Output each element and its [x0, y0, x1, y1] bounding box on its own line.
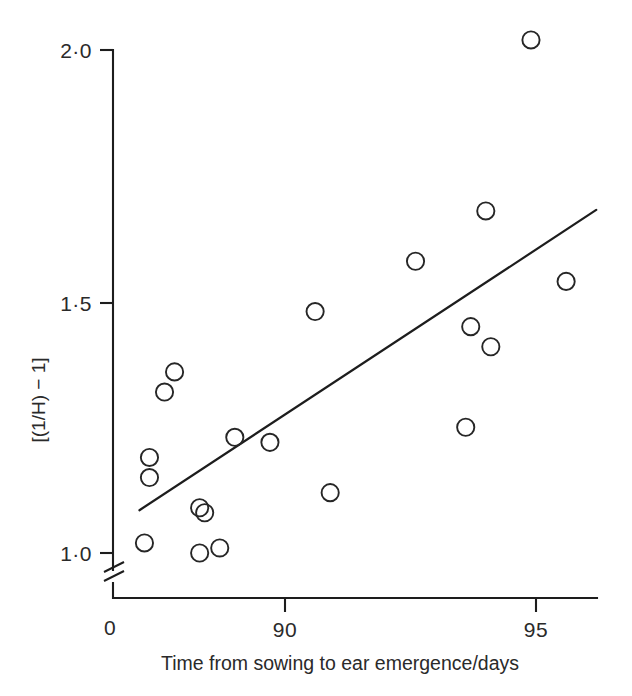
y-tick-label-1.0: 1·0 [60, 542, 92, 565]
chart-figure: 2·0 1·5 1·0 0 90 95 [(1/H) − 1] Time fro… [0, 0, 632, 696]
data-point-marker [522, 31, 539, 48]
data-point-marker [482, 338, 499, 355]
axis-break-mark-lower [104, 571, 124, 581]
data-point-marker [196, 504, 213, 521]
data-point-marker [191, 544, 208, 561]
data-point-marker [457, 419, 474, 436]
x-tick-label-90: 90 [273, 618, 297, 641]
data-point-marker [211, 539, 228, 556]
origin-label: 0 [104, 616, 116, 639]
data-point-marker [462, 318, 479, 335]
data-point-group [136, 31, 575, 561]
x-tick-label-95: 95 [524, 618, 548, 641]
data-point-marker [141, 449, 158, 466]
y-tick-label-2.0: 2·0 [60, 39, 92, 62]
data-point-marker [407, 253, 424, 270]
data-point-marker [166, 363, 183, 380]
data-point-marker [156, 383, 173, 400]
data-point-marker [477, 202, 494, 219]
data-point-marker [141, 469, 158, 486]
x-axis-line [113, 583, 597, 598]
data-point-marker [558, 273, 575, 290]
data-point-marker [307, 303, 324, 320]
data-point-marker [226, 429, 243, 446]
data-point-marker [136, 534, 153, 551]
y-axis-title: [(1/H) − 1] [28, 358, 49, 443]
data-point-marker [191, 499, 208, 516]
scatter-plot-canvas: 2·0 1·5 1·0 0 90 95 [(1/H) − 1] Time fro… [0, 0, 632, 696]
x-axis-title: Time from sowing to ear emergence/days [161, 652, 519, 674]
y-tick-label-1.5: 1·5 [60, 292, 92, 315]
data-point-marker [261, 434, 278, 451]
data-point-marker [322, 484, 339, 501]
regression-fit-line [139, 210, 596, 510]
